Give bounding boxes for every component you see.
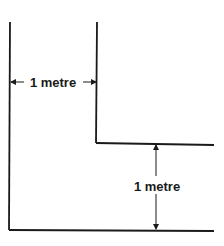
inner-wall-line: [96, 22, 97, 143]
horizontal-dimension-label: 1 metre: [30, 75, 76, 90]
step-line: [96, 143, 214, 145]
floor-line: [9, 230, 214, 231]
left-wall-line: [9, 22, 10, 230]
vertical-dimension-label: 1 metre: [134, 179, 180, 194]
step-diagram: 1 metre 1 metre: [0, 0, 224, 246]
